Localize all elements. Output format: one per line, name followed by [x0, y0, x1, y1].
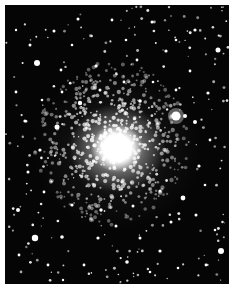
star [163, 88, 167, 92]
star [211, 109, 213, 111]
star [149, 188, 151, 190]
star [133, 276, 135, 278]
star [150, 191, 153, 194]
star [173, 98, 175, 100]
star [44, 108, 46, 110]
star [176, 178, 179, 181]
star [81, 216, 83, 218]
star [121, 109, 124, 112]
star [224, 222, 225, 223]
star [153, 167, 155, 169]
star [111, 183, 115, 187]
star [129, 191, 132, 194]
star [110, 141, 114, 145]
star [76, 78, 77, 79]
star [150, 127, 152, 129]
star [41, 117, 45, 121]
star [152, 164, 154, 166]
star [136, 49, 139, 52]
star [99, 208, 102, 211]
star [143, 79, 147, 83]
star [168, 6, 170, 8]
star [60, 88, 62, 90]
star [120, 98, 123, 101]
star [214, 58, 216, 60]
star [139, 116, 141, 118]
star [74, 101, 77, 104]
star [42, 109, 46, 113]
star [204, 37, 206, 39]
star [134, 126, 138, 130]
star [147, 126, 149, 128]
star [20, 206, 22, 208]
star [133, 134, 136, 137]
star [97, 213, 99, 215]
star [189, 70, 192, 73]
star [166, 108, 168, 110]
star [199, 229, 202, 232]
star [85, 108, 87, 110]
star [168, 131, 171, 134]
star [124, 138, 126, 140]
star [97, 148, 99, 150]
star [72, 104, 76, 108]
star [112, 176, 116, 180]
star [112, 116, 116, 120]
star [113, 267, 116, 270]
star [216, 48, 221, 53]
star [155, 131, 158, 134]
star [77, 198, 79, 200]
star [84, 170, 86, 172]
star [182, 263, 184, 265]
star [167, 148, 169, 150]
star [42, 104, 43, 105]
star [61, 148, 65, 152]
star [132, 104, 134, 106]
star [96, 175, 99, 178]
star [105, 146, 109, 150]
star [167, 278, 168, 279]
star [15, 91, 18, 94]
star [129, 165, 133, 169]
star [111, 19, 114, 22]
star [175, 39, 178, 42]
star [99, 101, 102, 104]
star [125, 83, 127, 85]
star [135, 161, 138, 164]
star [114, 104, 116, 106]
star [158, 249, 161, 252]
star [214, 229, 217, 232]
star [129, 154, 131, 156]
star [131, 169, 135, 173]
star [50, 150, 53, 153]
star [104, 116, 106, 118]
star [148, 107, 150, 109]
star [178, 87, 180, 89]
star [129, 217, 132, 220]
star [115, 114, 116, 115]
star [162, 105, 166, 109]
star [27, 242, 30, 245]
star [107, 219, 111, 223]
star [96, 178, 99, 181]
star [104, 91, 108, 95]
star [100, 213, 102, 215]
star [204, 255, 205, 256]
star [84, 216, 86, 218]
star [126, 55, 128, 57]
star [62, 264, 64, 266]
star [99, 80, 101, 82]
star [155, 198, 157, 200]
star [18, 254, 21, 257]
star [210, 7, 212, 9]
star [198, 258, 200, 260]
star [47, 264, 50, 267]
star [22, 62, 24, 64]
star [157, 80, 159, 82]
star [26, 164, 29, 167]
star [152, 74, 154, 76]
star [164, 127, 166, 129]
star [220, 279, 221, 280]
star [128, 28, 129, 29]
star [188, 46, 191, 49]
